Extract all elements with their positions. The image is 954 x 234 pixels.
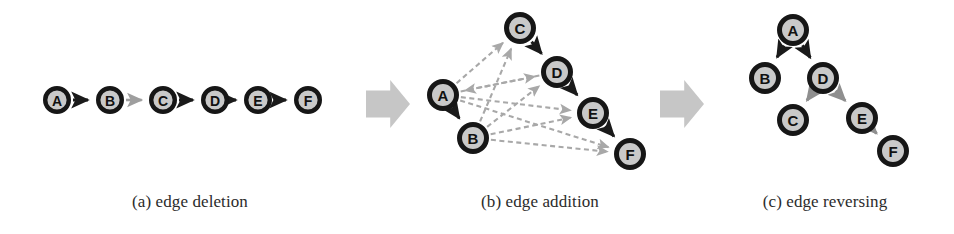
edge-c-A-to-B [777,46,784,58]
edge-c-E-to-F [874,131,876,133]
node-c-C: C [780,107,807,134]
node-b-F: F [617,141,644,168]
block-arrow-transition-a-to-b [366,80,410,128]
edge-b-A-to-C [457,43,503,83]
node-a-F: F [296,88,320,112]
node-c-F: F [880,138,907,165]
node-c-A: A [780,17,807,44]
panel-b-caption: (b) edge addition [395,192,685,212]
edge-b-D-to-E [569,86,577,95]
node-b-C: C [507,15,534,42]
edge-b-C-to-D [532,42,542,54]
edge-c-D-to-E [836,91,846,101]
panel-a-caption: (a) edge deletion [40,192,340,212]
node-a-B: B [98,88,122,112]
node-a-E: E [246,88,270,112]
block-arrow-layer [366,80,704,128]
panel-c-caption: (c) edge reversing [680,192,954,212]
edge-b-A-to-B [453,110,459,119]
edge-c-D-to-C [807,93,813,101]
node-layer: ABCDEFABCDEFABDCEF [45,15,906,168]
node-b-D: D [544,59,571,86]
node-b-A: A [430,82,457,109]
node-a-C: C [151,88,175,112]
node-a-A: A [45,88,69,112]
node-c-E: E [849,105,876,132]
node-c-D: D [810,65,837,92]
node-b-E: E [580,100,607,127]
edge-b-D-to-A [465,76,539,91]
figure-container: ABCDEFABCDEFABDCEF (a) edge deletion (b)… [0,0,954,234]
block-arrow-transition-b-to-c [660,80,704,128]
node-b-B: B [460,125,487,152]
node-a-D: D [203,88,227,112]
edge-b-E-to-F [605,126,614,136]
edge-c-A-to-D [803,45,811,57]
node-c-B: B [752,65,779,92]
